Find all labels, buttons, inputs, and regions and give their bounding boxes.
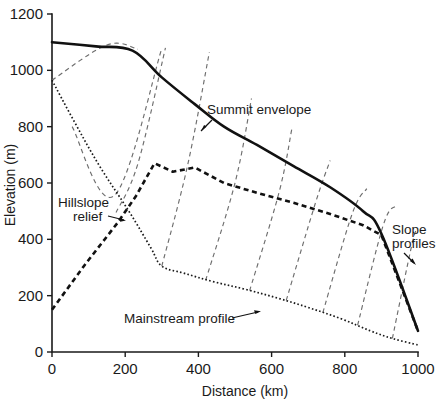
y-axis-title: Elevation (m): [2, 144, 18, 226]
annotation-mainstream-arrow-shaft: [232, 312, 258, 318]
annotation-hillslope-relief-label-line2: relief: [73, 209, 103, 224]
x-axis-tick-labels: 02004006008001000: [48, 360, 435, 377]
series-slope-profiles: [52, 43, 418, 338]
annotation-hillslope-relief: Hillslope relief: [58, 195, 126, 224]
x-tick-label-1000: 1000: [401, 360, 434, 377]
y-tick-label-1000: 1000: [10, 61, 43, 78]
annotation-mainstream-arrow-head: [254, 310, 261, 314]
annotation-mainstream-profile: Mainstream profile: [124, 310, 261, 326]
x-tick-label-800: 800: [332, 360, 357, 377]
y-tick-label-1200: 1200: [10, 5, 43, 22]
annotation-slope-profiles: Slope profiles: [392, 222, 436, 265]
annotation-mainstream-profile-label: Mainstream profile: [124, 311, 235, 326]
y-tick-label-200: 200: [18, 287, 43, 304]
chart-canvas: 02004006008001000 020040060080010001200 …: [0, 0, 443, 402]
x-tick-label-600: 600: [259, 360, 284, 377]
x-tick-label-400: 400: [186, 360, 211, 377]
y-tick-label-800: 800: [18, 118, 43, 135]
slope-profile-line-7: [286, 160, 330, 300]
x-tick-label-200: 200: [113, 360, 138, 377]
series-hillslope-relief: [52, 163, 418, 331]
annotation-summit-envelope: Summit envelope: [201, 102, 311, 131]
annotation-hillslope-relief-label-line1: Hillslope: [58, 195, 109, 210]
y-tick-label-600: 600: [18, 174, 43, 191]
x-axis-title: Distance (km): [202, 383, 288, 399]
x-tick-label-0: 0: [48, 360, 56, 377]
annotation-hillslope-arrow-head: [119, 218, 126, 222]
annotation-summit-envelope-label: Summit envelope: [207, 102, 311, 117]
annotation-slope-profiles-label-line1: Slope: [392, 222, 427, 237]
annotation-slope-profiles-label-line2: profiles: [392, 236, 436, 251]
y-tick-label-400: 400: [18, 230, 43, 247]
y-tick-label-0: 0: [35, 343, 43, 360]
elevation-distance-chart: 02004006008001000 020040060080010001200 …: [0, 0, 443, 402]
